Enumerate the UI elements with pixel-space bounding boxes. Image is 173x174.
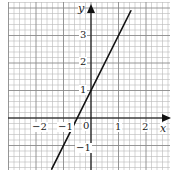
y-tick-3: 3 [79, 30, 87, 40]
origin-label: 0 [82, 121, 90, 131]
x-axis-label: x [160, 123, 166, 134]
x-axis-arrow-icon [162, 114, 171, 122]
y-tick-2: 2 [79, 57, 87, 67]
y-axis-arrow-icon [87, 4, 95, 13]
x-tick-2: 2 [141, 122, 149, 132]
x-tick-minus-2: −2 [31, 122, 48, 132]
y-axis-label: y [78, 3, 84, 14]
y-tick-minus-1: −1 [75, 143, 92, 153]
x-tick-minus-1: −1 [57, 122, 74, 132]
y-tick-1: 1 [79, 85, 87, 95]
x-tick-1: 1 [114, 122, 122, 132]
